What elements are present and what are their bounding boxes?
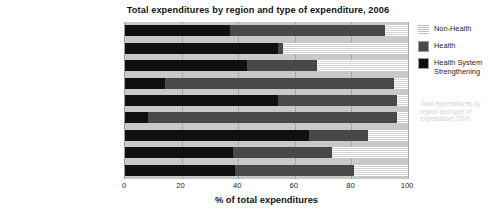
- x-axis-tick-label: 100: [401, 181, 414, 190]
- legend-label-health: Health: [434, 41, 455, 50]
- watermark-text: Total expenditures by region and type of…: [420, 100, 482, 123]
- legend-label-health-system-strengthening: Health System Strengthening: [434, 58, 498, 76]
- legend-item-health-system-strengthening: Health System Strengthening: [418, 58, 498, 76]
- chart-figure: Total expenditures by region and type of…: [0, 0, 500, 216]
- legend-swatch-non-health-icon: [418, 24, 429, 35]
- legend-label-non-health: Non-Health: [434, 24, 471, 33]
- x-axis-tick-label: 60: [290, 181, 298, 190]
- legend-swatch-health-system-strengthening-icon: [418, 58, 429, 69]
- x-axis-tick-label: 0: [122, 181, 126, 190]
- legend-item-health: Health: [418, 41, 498, 52]
- x-axis-tick-label: 40: [233, 181, 241, 190]
- legend-item-non-health: Non-Health: [418, 24, 498, 35]
- x-axis-tick-label: 20: [176, 181, 184, 190]
- legend-swatch-health-icon: [418, 41, 429, 52]
- x-axis-tick-label: 80: [346, 181, 354, 190]
- x-axis-title: % of total expenditures: [124, 194, 409, 205]
- chart-legend: Non-Health Health Health System Strength…: [418, 24, 498, 82]
